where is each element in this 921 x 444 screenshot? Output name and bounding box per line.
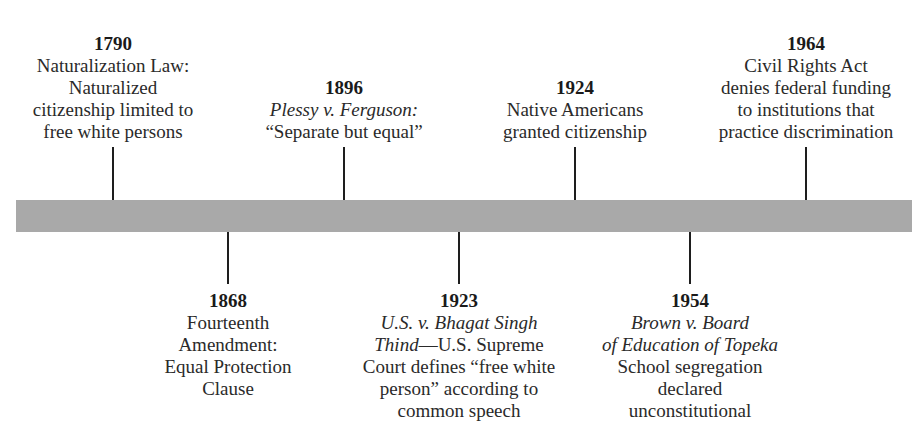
event-1790: 1790 Naturalization Law: Naturalized cit… [33, 33, 193, 143]
event-text: Naturalization Law: [33, 55, 193, 77]
event-text: Equal Protection [164, 356, 291, 378]
case-name: Brown v. Board [602, 312, 778, 334]
event-text: School segregation [602, 356, 778, 378]
event-1896: 1896 Plessy v. Ferguson: “Separate but e… [265, 77, 422, 143]
event-1924: 1924 Native Americans granted citizenshi… [503, 77, 647, 143]
event-1964: 1964 Civil Rights Act denies federal fun… [719, 33, 894, 143]
event-text: practice discrimination [719, 121, 894, 143]
event-year: 1924 [503, 77, 647, 99]
event-1923: 1923 U.S. v. Bhagat Singh Thind—U.S. Sup… [363, 290, 556, 422]
event-text: citizenship limited to [33, 99, 193, 121]
event-text: free white persons [33, 121, 193, 143]
event-text: Fourteenth [164, 312, 291, 334]
event-year: 1954 [602, 290, 778, 312]
tick-1790 [112, 147, 114, 200]
event-year: 1964 [719, 33, 894, 55]
event-text: denies federal funding [719, 77, 894, 99]
event-text: unconstitutional [602, 400, 778, 422]
case-name: Plessy v. Ferguson: [265, 99, 422, 121]
event-year: 1790 [33, 33, 193, 55]
event-text: Amendment: [164, 334, 291, 356]
event-text: —U.S. Supreme [419, 334, 544, 355]
event-1868: 1868 Fourteenth Amendment: Equal Protect… [164, 290, 291, 400]
event-text: Naturalized [33, 77, 193, 99]
event-year: 1923 [363, 290, 556, 312]
event-text: “Separate but equal” [265, 121, 422, 143]
event-text: Clause [164, 378, 291, 400]
event-text: declared [602, 378, 778, 400]
event-text: Civil Rights Act [719, 55, 894, 77]
tick-1868 [227, 232, 229, 284]
case-name: U.S. v. Bhagat Singh [363, 312, 556, 334]
case-name-part: Thind [374, 334, 418, 355]
event-text: to institutions that [719, 99, 894, 121]
event-text: Court defines “free white [363, 356, 556, 378]
event-text: common speech [363, 400, 556, 422]
tick-1923 [458, 232, 460, 284]
case-continuation: Thind—U.S. Supreme [363, 334, 556, 356]
event-1954: 1954 Brown v. Board of Education of Tope… [602, 290, 778, 422]
event-text: Native Americans [503, 99, 647, 121]
tick-1896 [343, 147, 345, 200]
event-text: granted citizenship [503, 121, 647, 143]
event-year: 1868 [164, 290, 291, 312]
timeline-bar [16, 200, 912, 232]
event-year: 1896 [265, 77, 422, 99]
case-name: of Education of Topeka [602, 334, 778, 356]
tick-1954 [689, 232, 691, 284]
event-text: person” according to [363, 378, 556, 400]
tick-1924 [574, 147, 576, 200]
tick-1964 [805, 147, 807, 200]
